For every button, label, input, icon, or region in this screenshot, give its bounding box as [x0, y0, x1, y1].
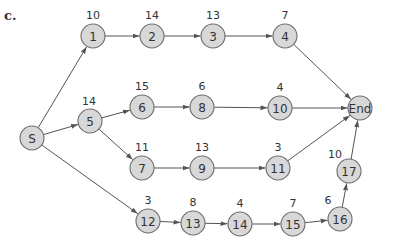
duration-label: 6 — [325, 194, 332, 207]
duration-label: 13 — [195, 141, 209, 154]
duration-label: 10 — [328, 148, 342, 161]
node-17: 1710 — [328, 148, 361, 183]
node-label: 1 — [89, 30, 97, 44]
edge-16-to-17 — [342, 183, 347, 207]
node-2: 214 — [140, 9, 164, 48]
duration-label: 4 — [277, 81, 284, 94]
node-12: 123 — [136, 194, 160, 233]
node-label: 17 — [341, 165, 356, 179]
duration-label: 15 — [135, 80, 149, 93]
node-label: 7 — [138, 162, 146, 176]
edge-5-to-7 — [99, 129, 133, 160]
node-7: 711 — [130, 141, 154, 180]
edge-8-to-10 — [214, 107, 268, 108]
node-1: 110 — [81, 9, 105, 48]
node-label: 2 — [148, 30, 156, 44]
duration-label: 13 — [206, 9, 220, 22]
edge-15-to-16 — [305, 220, 328, 222]
edge-5-to-6 — [102, 110, 130, 118]
node-8: 86 — [190, 80, 214, 119]
node-S: S — [20, 126, 44, 150]
node-End: End — [348, 96, 372, 120]
node-label: 8 — [198, 101, 206, 115]
duration-label: 14 — [82, 95, 96, 108]
node-label: 14 — [232, 218, 247, 232]
edge-17-to-End — [351, 120, 358, 159]
node-label: 16 — [332, 213, 347, 227]
duration-label: 8 — [190, 196, 197, 209]
node-label: 6 — [138, 101, 146, 115]
duration-label: 6 — [199, 80, 206, 93]
node-label: 4 — [281, 30, 289, 44]
node-label: 13 — [185, 217, 200, 231]
node-label: 3 — [209, 30, 217, 44]
node-13: 138 — [181, 196, 205, 235]
node-label: 11 — [270, 162, 285, 176]
node-label: 15 — [285, 218, 300, 232]
diagram-svg: S110214313475146158610471191311312313814… — [0, 0, 399, 241]
duration-label: 4 — [237, 197, 244, 210]
node-label: End — [349, 102, 372, 116]
duration-label: 7 — [282, 9, 289, 22]
node-9: 913 — [190, 141, 214, 180]
node-6: 615 — [130, 80, 154, 119]
node-15: 157 — [281, 197, 305, 236]
duration-label: 10 — [86, 9, 100, 22]
node-16: 166 — [325, 194, 353, 231]
node-5: 514 — [78, 95, 102, 133]
node-label: 12 — [140, 215, 155, 229]
node-3: 313 — [201, 9, 225, 48]
edge-12-to-13 — [160, 222, 181, 223]
duration-label: 3 — [275, 141, 282, 154]
node-10: 104 — [268, 81, 292, 120]
node-label: 9 — [198, 162, 206, 176]
duration-label: 14 — [145, 9, 159, 22]
node-14: 144 — [228, 197, 252, 236]
duration-label: 11 — [135, 141, 149, 154]
edge-S-to-12 — [42, 145, 138, 214]
node-label: 5 — [86, 115, 94, 129]
network-diagram: c. S110214313475146158610471191311312313… — [0, 0, 399, 241]
edge-S-to-5 — [44, 125, 79, 135]
node-label: S — [28, 132, 36, 146]
nodes-layer: S110214313475146158610471191311312313814… — [20, 9, 372, 236]
node-11: 113 — [266, 141, 290, 180]
node-4: 47 — [273, 9, 297, 48]
duration-label: 7 — [290, 197, 297, 210]
edge-4-to-End — [294, 44, 351, 99]
duration-label: 3 — [145, 194, 152, 207]
node-label: 10 — [272, 102, 287, 116]
